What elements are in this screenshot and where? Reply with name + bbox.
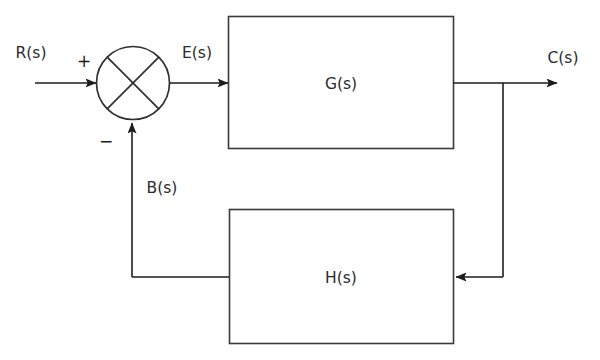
block-feedback-gain-label: H(s) bbox=[325, 269, 357, 287]
input-signal-label: R(s) bbox=[16, 44, 47, 62]
block-diagram: G(s) H(s) R(s) E(s) C(s) B(s) + − bbox=[0, 0, 600, 360]
block-diagram-canvas: G(s) H(s) R(s) E(s) C(s) B(s) + − bbox=[0, 0, 600, 360]
error-signal-label: E(s) bbox=[182, 44, 212, 62]
summing-junction-plus-sign: + bbox=[77, 51, 91, 71]
feedback-signal-label: B(s) bbox=[147, 179, 178, 197]
summing-junction-minus-sign: − bbox=[99, 131, 113, 151]
block-forward-gain-label: G(s) bbox=[325, 75, 357, 93]
output-signal-label: C(s) bbox=[548, 49, 579, 67]
